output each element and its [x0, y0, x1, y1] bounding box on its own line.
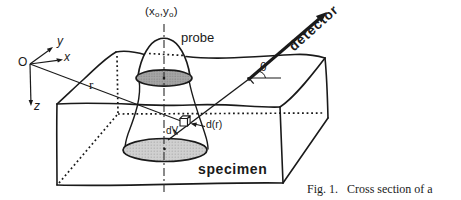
detector-ray [168, 77, 254, 140]
hidden-edges-dotted [59, 56, 324, 183]
probe-label: probe [181, 31, 214, 45]
y-axis-label: y [57, 35, 63, 48]
beam-position-label: (xo,yo) [145, 5, 178, 19]
coordinate-axes [29, 47, 63, 106]
specimen-box [57, 51, 328, 185]
caption-line-1: Fig. 1. Cross section of a [307, 183, 457, 197]
entry-center-dot [163, 77, 166, 80]
figure-1: (xo,yo) probe detector θ r O x y z dV d(… [0, 0, 461, 200]
figure-caption: Fig. 1. Cross section of a beam-specimen… [307, 156, 457, 200]
dv-label: dV [166, 126, 178, 137]
base-center-dot [163, 148, 166, 151]
volume-element-cube [180, 116, 190, 126]
x-axis-label: x [64, 51, 70, 64]
z-axis-label: z [34, 100, 40, 113]
specimen-label: specimen [198, 162, 267, 177]
origin-label: O [18, 56, 27, 69]
d-of-r-label: d(r) [206, 119, 222, 130]
d-of-r-arrow [191, 123, 206, 127]
r-label: r [89, 78, 93, 92]
theta-label: θ [260, 61, 267, 74]
z-axis-arrow [30, 64, 31, 101]
